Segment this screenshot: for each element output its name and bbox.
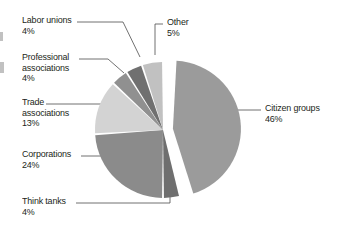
leader-line-other <box>155 24 163 55</box>
callout-professional-associations: Professional associations 4% <box>22 52 69 84</box>
callout-other-value: 5% <box>167 28 188 39</box>
callout-think-tanks-value: 4% <box>22 207 66 218</box>
callout-think-tanks-name: Think tanks <box>22 196 66 207</box>
callout-citizen-groups: Citizen groups 46% <box>265 103 320 124</box>
callout-labor-unions-name: Labor unions <box>22 15 72 26</box>
callout-other: Other 5% <box>167 17 188 38</box>
callout-labor-unions: Labor unions 4% <box>22 15 72 36</box>
callout-trade-associations: Trade associations 13% <box>22 97 69 129</box>
callout-think-tanks: Think tanks 4% <box>22 196 66 217</box>
callout-professional-associations-line1: Professional <box>22 52 69 63</box>
callout-labor-unions-value: 4% <box>22 26 72 37</box>
callout-corporations-name: Corporations <box>22 149 71 160</box>
leader-line-labor-unions <box>77 22 140 57</box>
callout-trade-associations-value: 13% <box>22 118 69 129</box>
callout-other-name: Other <box>167 17 188 28</box>
callout-citizen-groups-value: 46% <box>265 114 320 125</box>
pie-slices <box>95 61 241 198</box>
leader-line-professional-associations <box>79 59 124 73</box>
callout-citizen-groups-name: Citizen groups <box>265 103 320 114</box>
callout-professional-associations-value: 4% <box>22 73 69 84</box>
pie-chart-figure: Labor unions 4% Professional association… <box>0 0 345 233</box>
pie-slice-corporations[interactable] <box>95 130 163 198</box>
callout-corporations: Corporations 24% <box>22 149 71 170</box>
callout-corporations-value: 24% <box>22 160 71 171</box>
pie-slice-citizen-groups[interactable] <box>173 61 241 194</box>
callout-trade-associations-line1: Trade <box>22 97 69 108</box>
